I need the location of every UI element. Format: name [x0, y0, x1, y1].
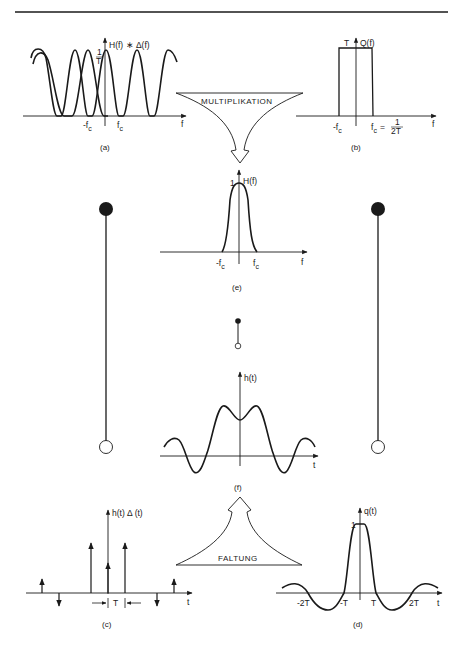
caption-c: (c)	[102, 620, 112, 629]
panel-f: h(t) t (f)	[160, 372, 318, 492]
x-axis-label: t	[187, 597, 190, 607]
convolution-label: FALTUNG	[218, 554, 258, 563]
pendulum-left	[99, 202, 113, 454]
y-axis-label: H(f) ∗ Δ(f)	[109, 40, 150, 50]
panel-d: 1 q(t) -2T -T T 2T t (d)	[276, 506, 442, 629]
peak-label: 1	[230, 178, 235, 188]
y-axis-label: h(t)	[244, 373, 257, 383]
open-circle-icon	[235, 343, 241, 349]
tick-neg-T: -T	[340, 598, 348, 608]
multiplication-arrow: MULTIPLIKATION	[176, 93, 303, 163]
caption-f: (f)	[234, 483, 242, 492]
multiplication-label: MULTIPLIKATION	[201, 97, 273, 106]
frac-den: 2T	[391, 126, 401, 136]
tick-pos-fc: fc	[253, 258, 259, 270]
filled-circle-icon	[99, 202, 113, 216]
x-axis-label: f	[301, 257, 304, 267]
tick-neg-fc: -fc	[333, 122, 342, 134]
filled-circle-icon	[371, 202, 385, 216]
tick-neg-fc: -fc	[216, 258, 225, 270]
impulse-response-curve	[164, 406, 315, 473]
lowpass-response-curve	[222, 183, 257, 252]
pendulum-center	[235, 318, 241, 349]
tick-pos-T: T	[371, 598, 376, 608]
pendulum-right	[371, 202, 385, 454]
open-circle-icon	[100, 441, 113, 454]
figure-canvas: H(f) ∗ Δ(f) 1 T -fc fc f (a) T Q(f) -fc …	[0, 0, 466, 657]
spacing-label: T	[113, 598, 118, 608]
y-axis-label: Q(f)	[360, 38, 375, 48]
x-axis-label: t	[313, 460, 316, 470]
x-axis-label: f	[181, 119, 184, 129]
open-circle-icon	[372, 441, 385, 454]
filled-circle-icon	[235, 318, 241, 324]
y-axis-label: H(f)	[243, 176, 257, 186]
tick-pos-2T: 2T	[409, 598, 419, 608]
panel-c: h(t) Δ (t) T t (c)	[26, 508, 192, 629]
panel-b: T Q(f) -fc fc= 1 2T f (b)	[296, 38, 436, 152]
caption-b: (b)	[351, 143, 361, 152]
y-axis-label: q(t)	[364, 506, 377, 516]
peak-label-den: T	[96, 56, 101, 66]
convolution-arrow: FALTUNG	[176, 497, 302, 565]
tick-neg-fc: -fc	[83, 120, 92, 132]
panel-a: H(f) ∗ Δ(f) 1 T -fc fc f (a)	[23, 38, 186, 152]
panel-e: 1 H(f) -fc fc f (e)	[160, 170, 307, 292]
tick-pos-fc: fc=	[371, 122, 385, 134]
x-axis-label: t	[437, 598, 440, 608]
tick-pos-fc: fc	[117, 120, 123, 132]
height-label: T	[344, 38, 349, 48]
caption-d: (d)	[353, 620, 363, 629]
peak-label: 1	[351, 520, 356, 530]
caption-e: (e)	[232, 283, 242, 292]
y-axis-label: h(t) Δ (t)	[112, 508, 143, 518]
x-axis-label: f	[432, 119, 435, 129]
tick-neg-2T: -2T	[297, 598, 310, 608]
caption-a: (a)	[100, 143, 110, 152]
